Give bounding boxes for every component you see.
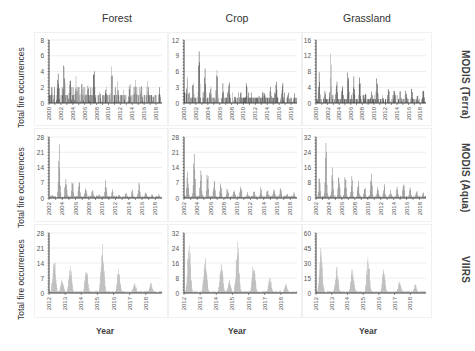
svg-text:8: 8	[40, 37, 44, 44]
svg-text:32: 32	[172, 230, 180, 237]
svg-text:0: 0	[175, 195, 179, 202]
svg-text:2015: 2015	[360, 296, 366, 310]
svg-text:2018: 2018	[153, 106, 159, 120]
svg-text:2017: 2017	[127, 296, 133, 310]
svg-text:2018: 2018	[288, 106, 294, 120]
svg-text:2012: 2012	[46, 296, 52, 310]
svg-text:2000: 2000	[181, 106, 187, 120]
svg-text:6: 6	[40, 52, 44, 59]
svg-text:2016: 2016	[404, 201, 410, 215]
svg-text:2010: 2010	[105, 106, 111, 120]
svg-text:2002: 2002	[193, 106, 199, 120]
svg-text:28: 28	[37, 134, 45, 141]
svg-text:21: 21	[37, 245, 45, 252]
svg-text:2002: 2002	[325, 106, 331, 120]
svg-text:2006: 2006	[217, 106, 223, 120]
svg-text:2018: 2018	[407, 296, 413, 310]
svg-text:2004: 2004	[70, 106, 76, 120]
svg-text:2015: 2015	[94, 296, 100, 310]
svg-text:0: 0	[307, 100, 311, 107]
svg-text:2008: 2008	[94, 106, 100, 120]
svg-text:2018: 2018	[287, 201, 293, 215]
svg-text:2014: 2014	[261, 201, 267, 215]
svg-text:8: 8	[175, 275, 179, 282]
chart-panel-1-1: 0714212820022004200620082010201220142016…	[172, 134, 297, 216]
svg-text:2018: 2018	[417, 201, 423, 215]
svg-text:2017: 2017	[392, 296, 398, 310]
svg-text:2016: 2016	[141, 106, 147, 120]
svg-text:4: 4	[307, 84, 311, 91]
svg-text:2016: 2016	[406, 106, 412, 120]
svg-text:0: 0	[307, 290, 311, 297]
svg-text:21: 21	[172, 149, 180, 156]
svg-text:0: 0	[175, 100, 179, 107]
svg-text:2002: 2002	[313, 201, 319, 215]
svg-text:2014: 2014	[391, 201, 397, 215]
svg-text:2018: 2018	[417, 106, 423, 120]
svg-text:0: 0	[175, 290, 179, 297]
svg-text:2004: 2004	[205, 106, 211, 120]
chart-panel-2-0: 071421282012201320142015201620172018	[37, 230, 162, 311]
svg-text:2000: 2000	[46, 106, 52, 120]
svg-text:9: 9	[175, 52, 179, 59]
svg-text:2002: 2002	[58, 106, 64, 120]
svg-text:32: 32	[304, 134, 312, 141]
svg-text:7: 7	[40, 275, 44, 282]
svg-text:14: 14	[37, 164, 45, 171]
svg-text:12: 12	[304, 52, 312, 59]
svg-text:2006: 2006	[208, 201, 214, 215]
svg-text:7: 7	[40, 179, 44, 186]
chart-panel-1-2: 0816243220022004200620082010201220142016…	[304, 134, 426, 216]
svg-text:2014: 2014	[213, 296, 219, 310]
svg-text:14: 14	[37, 260, 45, 267]
svg-text:14: 14	[172, 164, 180, 171]
svg-text:2012: 2012	[313, 296, 319, 310]
svg-text:2017: 2017	[262, 296, 268, 310]
svg-text:2002: 2002	[46, 201, 52, 215]
chart-panel-0-2: 0481216200020022004200620082010201220142…	[304, 37, 426, 121]
svg-text:2008: 2008	[86, 201, 92, 215]
svg-text:2014: 2014	[78, 296, 84, 310]
svg-text:0: 0	[307, 195, 311, 202]
chart-panel-0-0: 0246820002002200420062008201020122014201…	[40, 37, 162, 121]
svg-text:2014: 2014	[129, 106, 135, 120]
svg-text:2018: 2018	[152, 201, 158, 215]
svg-text:2012: 2012	[252, 106, 258, 120]
svg-text:2004: 2004	[59, 201, 65, 215]
svg-text:2013: 2013	[329, 296, 335, 310]
svg-text:24: 24	[304, 149, 312, 156]
svg-text:2014: 2014	[264, 106, 270, 120]
svg-text:2012: 2012	[378, 201, 384, 215]
svg-text:2004: 2004	[326, 201, 332, 215]
svg-text:24: 24	[172, 245, 180, 252]
svg-text:2010: 2010	[365, 201, 371, 215]
svg-text:2: 2	[40, 84, 44, 91]
svg-text:2018: 2018	[278, 296, 284, 310]
chart-panel-2-2: 0153045602012201320142015201620172018	[304, 230, 426, 311]
svg-text:2000: 2000	[313, 106, 319, 120]
svg-text:60: 60	[304, 230, 312, 237]
svg-text:0: 0	[40, 290, 44, 297]
svg-text:2012: 2012	[181, 296, 187, 310]
chart-panel-0-1: 0369122000200220042006200820102012201420…	[172, 37, 297, 121]
chart-grid: 0246820002002200420062008201020122014201…	[0, 0, 475, 351]
svg-text:6: 6	[175, 68, 179, 75]
svg-text:8: 8	[307, 68, 311, 75]
chart-panel-1-0: 0714212820022004200620082010201220142016…	[37, 134, 162, 216]
svg-text:2016: 2016	[274, 201, 280, 215]
svg-text:2016: 2016	[276, 106, 282, 120]
svg-text:2010: 2010	[234, 201, 240, 215]
svg-text:2012: 2012	[117, 106, 123, 120]
svg-text:15: 15	[304, 275, 312, 282]
svg-text:2010: 2010	[240, 106, 246, 120]
svg-text:28: 28	[37, 230, 45, 237]
svg-text:0: 0	[40, 100, 44, 107]
svg-text:2016: 2016	[111, 296, 117, 310]
svg-text:4: 4	[40, 68, 44, 75]
svg-text:2015: 2015	[229, 296, 235, 310]
svg-text:2012: 2012	[382, 106, 388, 120]
svg-text:16: 16	[304, 37, 312, 44]
svg-text:8: 8	[307, 179, 311, 186]
svg-text:45: 45	[304, 245, 312, 252]
svg-text:2006: 2006	[339, 201, 345, 215]
